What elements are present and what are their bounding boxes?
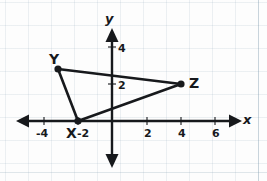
y-tick-label-2: 2	[118, 80, 126, 91]
x-tick-label-6: 6	[212, 128, 220, 139]
vertex-dot-x	[74, 117, 81, 124]
y-axis-label: y	[105, 12, 113, 25]
x-tick-label-4: 4	[178, 128, 186, 139]
coordinate-plane-svg	[0, 0, 267, 181]
y-axis	[106, 28, 119, 168]
x-tick-label--4: -4	[36, 128, 48, 139]
vertex-label-x: X	[66, 126, 77, 140]
vertex-label-y: Y	[49, 52, 59, 66]
x-axis	[16, 115, 242, 128]
y-axis-arrow-down	[106, 154, 119, 168]
triangle-vertices	[54, 65, 184, 124]
x-axis-arrow-right	[229, 115, 242, 128]
x-axis-label: x	[243, 113, 251, 126]
worksheet-figure: x y -4 -2 2 4 6 2 4 Y Z X	[0, 0, 267, 181]
triangle-xyz	[58, 69, 181, 121]
x-tick-label--2: -2	[77, 128, 89, 139]
edge-z-x	[78, 84, 181, 121]
edge-x-y	[58, 69, 78, 121]
y-tick-label-4: 4	[118, 43, 126, 54]
x-axis-arrow-left	[16, 115, 29, 128]
vertex-label-z: Z	[189, 76, 199, 90]
vertex-dot-z	[177, 80, 184, 87]
y-axis-arrow-up	[106, 28, 119, 42]
x-tick-label-2: 2	[144, 128, 152, 139]
